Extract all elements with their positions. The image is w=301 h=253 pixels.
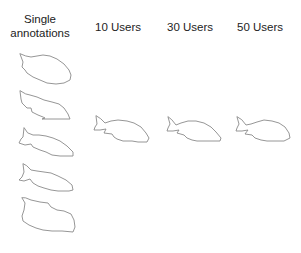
fish-outline-50-users <box>236 117 290 141</box>
fish-outline-10-users <box>94 116 149 142</box>
fish-outline-single-1 <box>20 54 71 84</box>
fish-outline-single-2 <box>20 91 70 119</box>
fish-outline-single-5 <box>22 198 75 232</box>
fish-outlines-figure <box>0 0 301 253</box>
fish-outline-single-4 <box>19 164 73 191</box>
fish-outline-single-3 <box>19 128 73 156</box>
fish-outline-30-users <box>167 117 221 141</box>
single-annotations-column <box>19 54 75 232</box>
